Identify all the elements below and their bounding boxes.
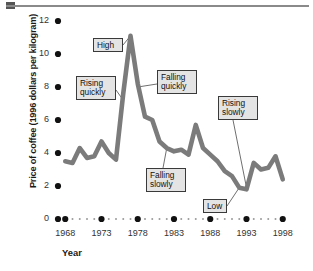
y-axis-tick-label: 12 <box>29 15 49 25</box>
annotation-high: High <box>93 38 123 52</box>
annotation-rising-slowly: Rising slowly <box>218 96 258 120</box>
x-axis-tick-label: 1993 <box>231 228 263 238</box>
chart-figure: Price of coffee (1996 dollars per kilogr… <box>0 0 313 271</box>
x-axis-tick-label: 1968 <box>49 228 81 238</box>
x-axis-tick-label: 1983 <box>158 228 190 238</box>
y-axis-tick-label: 0 <box>29 213 49 223</box>
y-axis-tick-dots <box>55 18 61 222</box>
x-axis-tick-label: 1973 <box>86 228 118 238</box>
annotation-falling-slowly: Falling slowly <box>146 168 186 192</box>
y-axis-tick-label: 10 <box>29 48 49 58</box>
annotation-falling-quickly: Falling quickly <box>157 70 197 94</box>
annotation-rising-quickly: Rising quickly <box>76 76 116 100</box>
y-axis-tick-label: 8 <box>29 81 49 91</box>
x-axis-dotted-line <box>62 216 286 222</box>
y-axis-tick-label: 6 <box>29 114 49 124</box>
annotation-low: Low <box>203 199 227 213</box>
y-axis-tick-label: 2 <box>29 180 49 190</box>
y-axis-tick-label: 4 <box>29 147 49 157</box>
x-axis-title: Year <box>62 247 82 258</box>
x-axis-tick-label: 1998 <box>267 228 299 238</box>
x-axis-tick-label: 1978 <box>122 228 154 238</box>
x-axis-tick-label: 1988 <box>194 228 226 238</box>
